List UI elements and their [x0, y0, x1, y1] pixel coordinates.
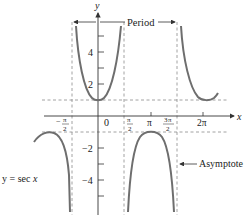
period-label: Period — [127, 17, 155, 28]
x-tick-label-neg-pi-half: − π 2 — [56, 116, 69, 133]
svg-text:2: 2 — [128, 125, 132, 133]
svg-text:π: π — [127, 116, 131, 124]
branch-right-positive — [181, 26, 218, 100]
y-axis-label: y — [94, 0, 100, 11]
secant-curve — [34, 26, 218, 212]
y-tick-label-2: 2 — [88, 79, 93, 90]
svg-text:π: π — [168, 116, 172, 124]
function-label: y = sec x — [2, 173, 38, 184]
x-tick-label-0: 0 — [104, 117, 109, 128]
branch-left-negative — [34, 132, 70, 212]
svg-text:2: 2 — [63, 125, 67, 133]
x-axis-label: x — [236, 111, 242, 122]
svg-text:π: π — [63, 116, 67, 124]
branch-center-positive — [76, 26, 121, 100]
y-tick-label-neg4: −4 — [82, 175, 93, 186]
branch-middle-negative — [128, 132, 174, 212]
svg-text:−: − — [56, 117, 61, 126]
secant-graph: Period Asymptote y x 4 2 −2 −4 − π 2 0 π… — [0, 0, 247, 215]
x-tick-label-3pi-half: 3 π 2 — [163, 116, 174, 133]
y-tick-label-neg2: −2 — [82, 143, 93, 154]
y-tick-label-4: 4 — [88, 47, 93, 58]
svg-text:2: 2 — [166, 125, 170, 133]
x-tick-label-2pi: 2π — [197, 118, 207, 128]
asymptote-label: Asymptote — [199, 158, 243, 169]
x-tick-label-pi-half: π 2 — [127, 116, 133, 133]
x-tick-label-pi: π — [147, 118, 152, 128]
